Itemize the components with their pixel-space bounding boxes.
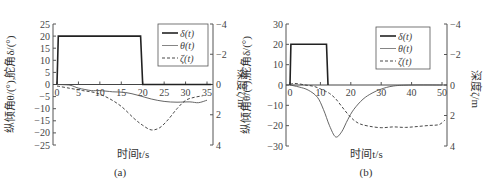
y-tick-label: 25 <box>40 19 50 30</box>
y-tick-label: 0 <box>278 80 283 91</box>
legend-label: δ(t) <box>398 31 413 43</box>
legend-label: ζ(t) <box>180 53 194 65</box>
y-tick-label: −30 <box>267 141 283 152</box>
y-tick-label: −20 <box>267 120 283 131</box>
series-θ <box>290 85 442 137</box>
panel-caption: (a) <box>114 166 127 179</box>
y-tick-label: −20 <box>34 127 50 138</box>
series-δ <box>290 44 328 85</box>
y2-tick-label: 4 <box>216 140 221 151</box>
x-tick-label: 0 <box>55 87 60 98</box>
legend-label: θ(t) <box>398 43 413 55</box>
y-tick-label: 15 <box>40 43 50 54</box>
legend: δ(t)θ(t)ζ(t) <box>376 27 430 69</box>
x-tick-label: 40 <box>407 87 417 98</box>
y-tick-label: −10 <box>34 103 50 114</box>
y2-axis-label: 深度ζ/m <box>469 70 483 109</box>
series-ζ <box>290 83 445 127</box>
y-tick-label: 10 <box>40 55 50 66</box>
y2-tick-label: 0 <box>216 79 221 90</box>
y2-tick-label: 0 <box>450 80 455 91</box>
x-axis-label: 时间t/s <box>117 148 149 160</box>
legend-label: θ(t) <box>180 40 195 52</box>
x-tick-label: 30 <box>181 87 191 98</box>
y2-tick-label: −4 <box>216 19 227 30</box>
x-tick-label: 50 <box>437 87 447 98</box>
y-tick-label: 20 <box>273 39 283 50</box>
y2-tick-label: −2 <box>216 49 227 60</box>
y-axis-label: 纵倾角θ/(°),舵角δ/(°) <box>239 36 253 134</box>
legend: δ(t)θ(t)ζ(t) <box>158 24 208 66</box>
x-tick-label: 0 <box>288 87 293 98</box>
y2-tick-label: 4 <box>450 141 455 152</box>
y-tick-label: 30 <box>273 19 283 30</box>
y2-tick-label: 2 <box>450 110 455 121</box>
legend-label: ζ(t) <box>398 56 412 68</box>
y-tick-label: −5 <box>39 91 50 102</box>
chart-panel-b: 3020100−10−20−30−4−202401020304050δ(t)θ(… <box>239 19 483 180</box>
x-axis-label: 时间t/s <box>350 148 382 160</box>
x-tick-label: 20 <box>346 87 356 98</box>
y-tick-label: −25 <box>34 140 50 151</box>
chart-panel-a: 2520151050−5−10−15−20−25−4−2024051015202… <box>3 19 249 180</box>
y2-tick-label: −4 <box>450 19 461 30</box>
y-tick-label: 5 <box>45 67 50 78</box>
x-tick-label: 35 <box>202 87 212 98</box>
legend-label: δ(t) <box>180 28 195 40</box>
figure: 2520151050−5−10−15−20−25−4−2024051015202… <box>0 0 490 187</box>
y2-tick-label: 2 <box>216 109 221 120</box>
y-tick-label: 10 <box>273 59 283 70</box>
y-tick-label: 0 <box>45 79 50 90</box>
y-tick-label: −15 <box>34 115 50 126</box>
panel-caption: (b) <box>360 166 373 179</box>
y-tick-label: 20 <box>40 31 50 42</box>
y2-tick-label: −2 <box>450 49 461 60</box>
y-axis-label: 纵倾角θ/(°),舵角δ/(°) <box>3 35 17 133</box>
x-tick-label: 25 <box>159 87 169 98</box>
y-tick-label: −10 <box>267 100 283 111</box>
